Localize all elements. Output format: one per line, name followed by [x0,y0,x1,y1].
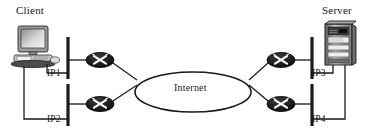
router-icon-top-right [267,52,295,67]
server-label: Server [322,4,352,16]
link-router-to-cloud-top-left [113,63,137,80]
link-cloud-to-router-bottom-right [249,85,268,101]
router-icon-bottom-left [86,96,114,111]
interface-label-ip2: IP2 [47,114,61,124]
interface-label-ip1: IP1 [47,68,61,78]
client-label: Client [16,4,44,16]
interface-label-ip4: IP4 [312,114,326,124]
link-router-to-cloud-bottom-left [113,85,137,101]
server-tower-icon [325,21,356,65]
router-icon-bottom-right [267,96,295,111]
link-client-to-ip2 [24,66,68,119]
internet-label: Internet [174,82,207,93]
router-icon-top-left [86,52,114,67]
interface-label-ip3: IP3 [312,68,326,78]
link-cloud-to-router-top-right [249,63,268,80]
desktop-computer-icon [11,26,60,68]
network-diagram: Client Server Internet IP1 IP2 IP3 IP4 [0,0,367,137]
